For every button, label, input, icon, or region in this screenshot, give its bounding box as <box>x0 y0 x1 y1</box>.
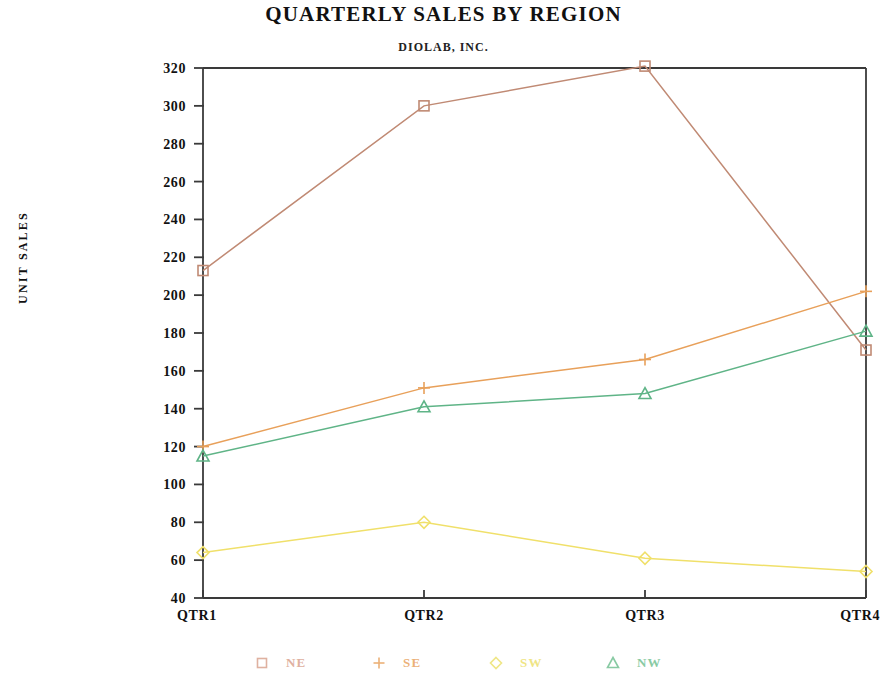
y-tick-label: 40 <box>171 591 186 606</box>
x-tick-label: QTR1 <box>177 608 217 623</box>
y-tick-label: 300 <box>163 99 186 114</box>
y-tick-label: 320 <box>163 61 186 76</box>
series-se <box>197 285 872 452</box>
y-tick-label: 80 <box>171 515 186 530</box>
plot-area: 4060801001201401601802002202402602803003… <box>0 0 887 681</box>
x-tick-label: QTR2 <box>404 608 444 623</box>
series-line <box>203 291 866 446</box>
y-tick-label: 200 <box>163 288 186 303</box>
series-sw <box>197 516 872 577</box>
y-tick-label: 260 <box>163 175 186 190</box>
y-tick-label: 220 <box>163 250 186 265</box>
y-tick-label: 60 <box>171 553 186 568</box>
y-tick-label: 100 <box>163 477 186 492</box>
y-tick-label: 120 <box>163 440 186 455</box>
x-tick-label: QTR4 <box>840 608 880 623</box>
x-tick-label: QTR3 <box>625 608 665 623</box>
series-line <box>203 522 866 571</box>
y-tick-label: 280 <box>163 137 186 152</box>
y-tick-label: 240 <box>163 212 186 227</box>
y-tick-label: 140 <box>163 402 186 417</box>
series-line <box>203 66 866 350</box>
series-ne <box>198 61 871 355</box>
chart-container: QUARTERLY SALES BY REGION DIOLAB, INC. U… <box>0 0 887 681</box>
series-line <box>203 331 866 456</box>
y-tick-label: 160 <box>163 364 186 379</box>
y-tick-label: 180 <box>163 326 186 341</box>
series-nw <box>197 325 872 461</box>
